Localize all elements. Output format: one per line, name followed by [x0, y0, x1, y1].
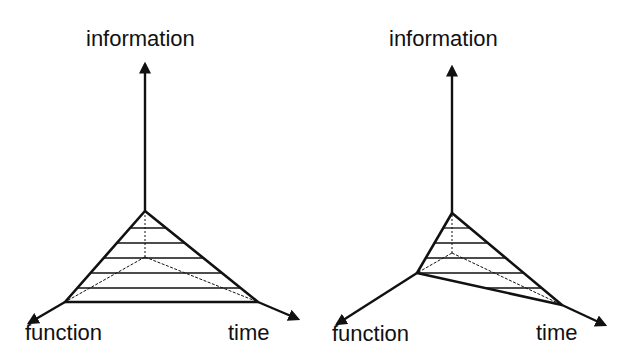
time-axis-arrow-icon — [258, 302, 298, 319]
hidden-edge-time — [145, 257, 258, 302]
hidden-edge-time — [452, 253, 562, 305]
hidden-edge-function — [65, 257, 145, 302]
diagram-canvas — [0, 0, 635, 357]
left-time-label: time — [228, 322, 270, 344]
right-time-label: time — [536, 322, 578, 344]
function-axis-arrow-icon — [337, 273, 417, 324]
diagram-right — [337, 67, 605, 325]
diagram-left — [29, 64, 298, 323]
left-information-label: information — [86, 28, 195, 50]
outer-triangle — [417, 213, 562, 305]
right-information-label: information — [389, 28, 498, 50]
right-function-label: function — [332, 323, 409, 345]
left-function-label: function — [25, 322, 102, 344]
